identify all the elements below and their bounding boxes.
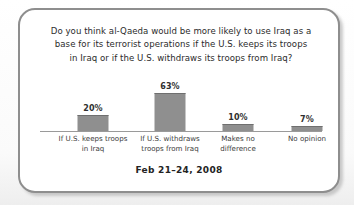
category-label-no-opinion-line1: No opinion (271, 134, 343, 144)
category-label-withdraws-troops-line2: troops from Iraq (134, 144, 206, 154)
category-label-withdraws-troops: If U.S. withdraws troops from Iraq (134, 134, 206, 153)
bar-withdraws-troops (155, 93, 186, 131)
bar-value-keeps-troops: 20% (57, 104, 129, 113)
bar-makes-no-difference (223, 124, 254, 131)
category-label-makes-no-difference-line2: difference (202, 144, 274, 154)
bar-plot-area-1: 20% (57, 10, 129, 131)
bar-no-opinion (292, 126, 323, 131)
category-label-withdraws-troops-line1: If U.S. withdraws (134, 134, 206, 144)
bar-value-withdraws-troops: 63% (134, 82, 206, 91)
category-label-keeps-troops: If U.S. keeps troops in Iraq (57, 134, 129, 153)
bar-plot-area-4: 7% (271, 10, 343, 131)
category-label-makes-no-difference-line1: Makes no (202, 134, 274, 144)
category-label-no-opinion: No opinion (271, 134, 343, 144)
category-label-keeps-troops-line2: in Iraq (57, 144, 129, 154)
bar-plot-area-3: 10% (202, 10, 274, 131)
poll-date-caption: Feb 21–24, 2008 (20, 165, 338, 175)
poll-result-card: Do you think al-Qaeda would be more like… (18, 8, 340, 193)
bar-value-no-opinion: 7% (271, 115, 343, 124)
bar-plot-area-2: 63% (134, 10, 206, 131)
bar-keeps-troops (78, 115, 109, 131)
category-label-keeps-troops-line1: If U.S. keeps troops (57, 134, 129, 144)
bar-value-makes-no-difference: 10% (202, 113, 274, 122)
category-label-makes-no-difference: Makes no difference (202, 134, 274, 153)
screenshot-root: Do you think al-Qaeda would be more like… (0, 0, 354, 205)
